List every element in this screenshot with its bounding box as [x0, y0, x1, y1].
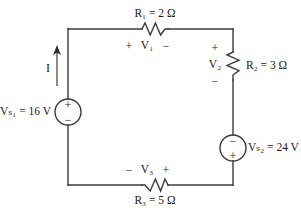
vs2-plus-terminal: +	[230, 150, 237, 162]
v3-voltage-label: V₃	[141, 164, 153, 176]
vs1-plus-terminal: +	[65, 99, 72, 111]
v2-plus-sign: +	[212, 42, 219, 54]
resistor-r3-symbol	[142, 179, 168, 191]
resistor-r2-symbol	[227, 52, 239, 80]
current-arrow-i	[53, 45, 61, 86]
v1-plus-sign: +	[126, 40, 133, 52]
resistor-r1-label: R₁ = 2 Ω	[134, 8, 175, 20]
v2-minus-sign: −	[212, 75, 219, 87]
circuit-diagram-figure: R₁ = 2 Ω + V₁ − + V₂ − R₂ = 3 Ω − V₃ + R…	[0, 0, 301, 212]
v3-minus-sign: −	[126, 164, 133, 176]
voltage-source-vs2-label: Vₛ₂ = 24 V	[248, 142, 299, 154]
resistor-r3-label: R₃ = 5 Ω	[134, 195, 175, 207]
vs1-minus-terminal: −	[65, 114, 72, 126]
v3-plus-sign: +	[163, 164, 170, 176]
resistor-r2-label: R₂ = 3 Ω	[246, 60, 287, 72]
voltage-source-vs1-label: Vₛ₁ = 16 V	[0, 106, 51, 118]
current-label-i: I	[46, 62, 50, 74]
v2-voltage-label: V₂	[209, 59, 221, 71]
v1-minus-sign: −	[163, 40, 170, 52]
vs2-minus-terminal: −	[230, 135, 237, 147]
resistor-r1-symbol	[142, 23, 168, 35]
v1-voltage-label: V₁	[141, 40, 153, 52]
